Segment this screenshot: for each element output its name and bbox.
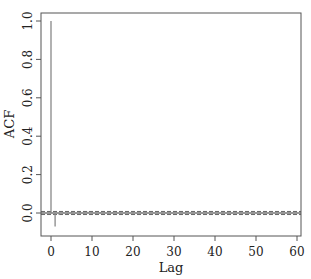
y-axis-title: ACF <box>2 110 17 139</box>
y-tick-label: 1.0 <box>21 11 35 30</box>
y-tick-label: 0.6 <box>21 88 35 107</box>
plot-frame <box>41 13 301 236</box>
x-tick-label: 40 <box>207 245 222 259</box>
x-tick-label: 30 <box>166 245 181 259</box>
y-tick-label: 0.4 <box>21 126 35 145</box>
y-tick-label: 0.0 <box>21 203 35 222</box>
y-tick-label: 0.2 <box>21 165 35 184</box>
plot-area <box>41 21 301 226</box>
x-tick-label: 20 <box>125 245 140 259</box>
x-tick-label: 60 <box>289 245 304 259</box>
y-axis: 0.00.20.40.60.81.0 <box>21 11 41 222</box>
x-tick-label: 50 <box>248 245 263 259</box>
x-axis: 0102030405060 <box>47 236 304 259</box>
y-tick-label: 0.8 <box>21 50 35 69</box>
x-axis-title: Lag <box>159 260 184 275</box>
acf-chart: 0102030405060 0.00.20.40.60.81.0 Lag ACF <box>0 0 311 279</box>
x-tick-label: 10 <box>84 245 99 259</box>
x-tick-label: 0 <box>47 245 55 259</box>
